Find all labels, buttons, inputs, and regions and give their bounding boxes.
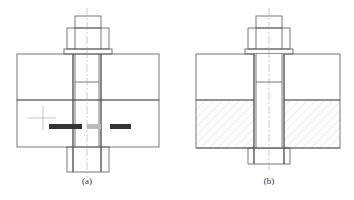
dynamic-input-tooltip (49, 124, 131, 129)
caption-a: (a) (67, 176, 107, 186)
panel-a (17, 8, 159, 178)
bolt-head-top (75, 16, 101, 28)
lower-plate (17, 100, 159, 147)
nut (67, 28, 109, 49)
upper-plate (17, 54, 159, 100)
caption-b: (b) (249, 176, 289, 186)
washer (64, 49, 112, 54)
bolt-joint-diagram (0, 0, 354, 200)
panel-b (196, 8, 340, 170)
